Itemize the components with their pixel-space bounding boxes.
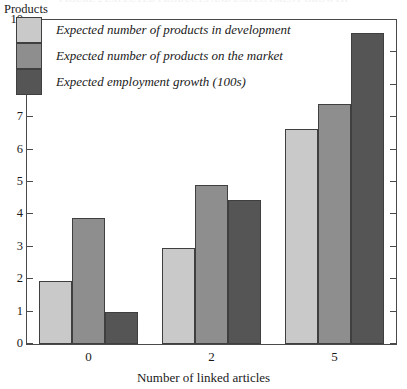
legend-swatch-1 <box>16 17 42 43</box>
legend-label-2: Expected number of products on the marke… <box>56 48 283 64</box>
legend-label-1: Expected number of products in developme… <box>56 22 291 38</box>
x-tick-label-2: 2 <box>208 349 215 364</box>
bar-5-series-1 <box>285 129 318 344</box>
y-tick-label: 7 <box>17 109 23 124</box>
legend-item-2: Expected number of products on the marke… <box>16 43 291 69</box>
bar-5-series-2 <box>318 104 351 344</box>
legend-swatch-3 <box>16 69 42 95</box>
legend-swatch-2 <box>16 43 42 69</box>
bar-2-series-2 <box>195 185 228 344</box>
y-tick-label: 3 <box>17 239 23 254</box>
chart-legend: Expected number of products in developme… <box>16 17 291 95</box>
legend-label-3: Expected employment growth (100s) <box>56 74 246 90</box>
bar-2-series-3 <box>228 200 261 344</box>
y-tick-label: 2 <box>17 271 23 286</box>
x-tick-label-5: 5 <box>331 349 338 364</box>
bar-0-series-1 <box>39 281 72 344</box>
y-tick-label: 0 <box>17 336 23 351</box>
bar-2-series-1 <box>162 248 195 344</box>
y-tick-label: 1 <box>17 304 23 319</box>
bar-0-series-3 <box>105 312 138 344</box>
legend-item-1: Expected number of products in developme… <box>16 17 291 43</box>
y-tick-label: 4 <box>17 206 23 221</box>
y-tick-label: 6 <box>17 142 23 157</box>
legend-item-3: Expected employment growth (100s) <box>16 69 291 95</box>
figure-title: FIGURE 2 EXPECTED PRODUCTS AND EMPLOYMEN… <box>0 0 407 3</box>
x-tick-label-0: 0 <box>85 349 92 364</box>
bar-5-series-3 <box>351 33 384 344</box>
x-axis-title: Number of linked articles <box>0 370 407 386</box>
bar-chart: FIGURE 2 EXPECTED PRODUCTS AND EMPLOYMEN… <box>0 0 407 389</box>
y-tick-label: 5 <box>17 174 23 189</box>
bar-0-series-2 <box>72 218 105 344</box>
